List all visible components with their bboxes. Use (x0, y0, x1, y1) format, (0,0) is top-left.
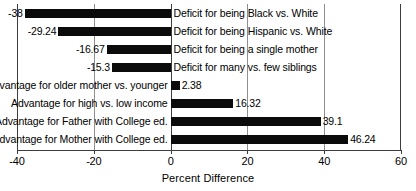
bar-category-label: Deficit for many vs. few siblings (174, 60, 317, 75)
bar-value-label: -16.67 (76, 42, 105, 57)
bar (171, 81, 180, 90)
bar (58, 27, 170, 36)
bar-row: Deficit for being a single mother-16.67 (17, 41, 401, 59)
bar-row: Deficit for being Black vs. White-38 (17, 5, 401, 23)
tick-mark-40 (324, 150, 325, 154)
tick-label-20: 20 (241, 155, 253, 168)
bar (112, 63, 171, 72)
tick-mark-0 (171, 150, 172, 154)
bar-category-label: Advantage for older mother vs. younger (0, 78, 168, 93)
bar-row: Deficit for being Hispanic vs. White-29.… (17, 23, 401, 41)
bar-row: Advantage for older mother vs. younger2.… (17, 77, 401, 95)
x-axis-title: Percent Difference (0, 172, 416, 185)
tick-label-40: 40 (318, 155, 330, 168)
bar-value-label: -29.24 (28, 24, 57, 39)
bar-row: Advantage for Mother with College ed.46.… (17, 131, 401, 149)
bar-category-label: Advantage for high vs. low income (11, 96, 168, 111)
tick-label-0: 0 (168, 155, 174, 168)
bar-value-label: 39.1 (323, 114, 343, 129)
bar-category-label: Deficit for being Hispanic vs. White (174, 24, 333, 39)
tick-mark--20 (94, 150, 95, 154)
tick-label--40: -40 (9, 155, 24, 168)
bar (171, 117, 321, 126)
tick-mark-60 (401, 150, 402, 154)
bar-category-label: Advantage for Mother with College ed. (0, 132, 168, 147)
bar-value-label: -38 (8, 6, 23, 21)
tick-label--20: -20 (86, 155, 101, 168)
bar-value-label: -15.3 (87, 60, 110, 75)
tick-mark--40 (17, 150, 18, 154)
bar-value-label: 2.38 (182, 78, 202, 93)
bar-row: Advantage for Father with College ed.39.… (17, 113, 401, 131)
bar-row: Advantage for high vs. low income16.32 (17, 95, 401, 113)
bar-row: Deficit for many vs. few siblings-15.3 (17, 59, 401, 77)
plot-area: Deficit for being Black vs. White-38Defi… (17, 4, 401, 150)
bar (171, 135, 349, 144)
tick-mark-20 (247, 150, 248, 154)
bar-value-label: 46.24 (350, 132, 375, 147)
bar-category-label: Advantage for Father with College ed. (0, 114, 168, 129)
bar-chart: Deficit for being Black vs. White-38Defi… (0, 0, 416, 191)
bar (171, 99, 234, 108)
bar (107, 45, 171, 54)
x-axis-line (17, 150, 402, 151)
bar-category-label: Deficit for being a single mother (174, 42, 318, 57)
bar-category-label: Deficit for being Black vs. White (174, 6, 318, 21)
bar (25, 9, 171, 18)
bar-value-label: 16.32 (235, 96, 260, 111)
tick-label-60: 60 (395, 155, 407, 168)
